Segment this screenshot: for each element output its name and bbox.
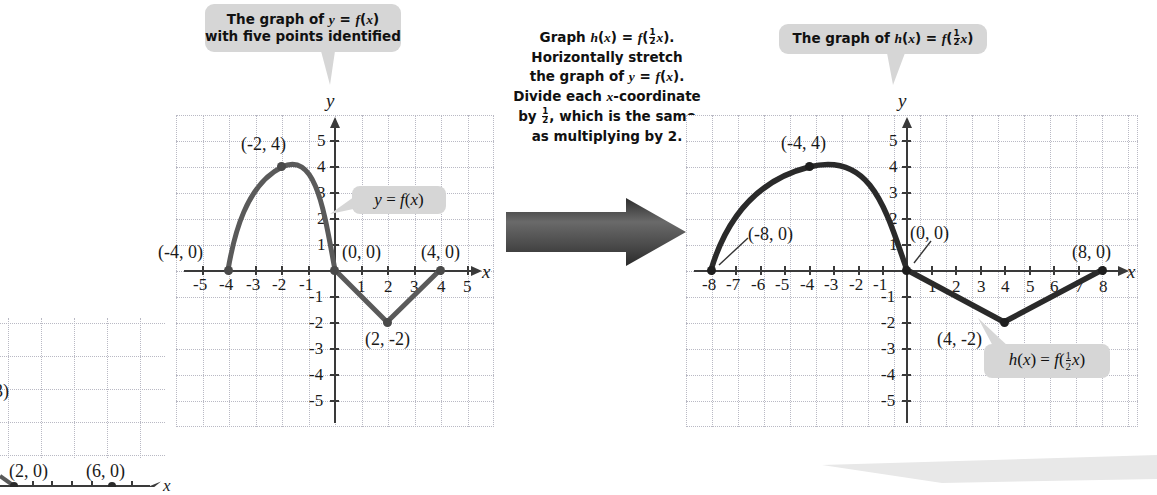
right-point-label--8-0: (-8, 0) [748, 224, 793, 245]
left-curve-label: y = f(x) [352, 186, 446, 214]
instruction-text: Graph h(x) = f(12x). Horizontally stretc… [501, 28, 713, 146]
right-point-0-0 [902, 266, 911, 275]
decorative-wedge [822, 455, 1157, 487]
right-point-8-0 [1098, 266, 1107, 275]
left-point--2-4 [277, 162, 286, 171]
left-point-label-4-0: (4, 0) [421, 242, 460, 263]
instruction-line-1: Graph h(x) = f(12x). [501, 28, 713, 48]
left-point-label-2--2: (2, -2) [365, 329, 410, 350]
callout-right-text: The graph of h(x) = f(12x) [793, 30, 974, 47]
right-point--8-0 [707, 266, 716, 275]
transformation-arrow [506, 196, 686, 268]
left-point-4-0 [436, 266, 445, 275]
left-point-0-0 [330, 266, 339, 275]
callout-left-line2: with five points identified [205, 28, 401, 44]
instruction-line-6: as multiplying by 2. [501, 127, 713, 147]
instruction-line-2: Horizontally stretch [501, 48, 713, 68]
right-point-label--4-4: (-4, 4) [781, 133, 826, 154]
instruction-line-4: Divide each x-coordinate [501, 87, 713, 107]
right-point--4-4 [805, 162, 814, 171]
left-curve-label-tail [330, 192, 360, 218]
left-point-label-0-0: (0, 0) [342, 242, 381, 263]
instruction-line-3: the graph of y = f(x). [501, 67, 713, 87]
adjacent-figure-fragment: 3) (2, 0) (6, 0) x [0, 318, 172, 487]
left-point-label--4-0: (-4, 0) [158, 242, 203, 263]
instruction-line-5: by 12, which is the same [501, 107, 713, 127]
left-y-axis-label: y [326, 90, 334, 112]
left-point--4-0 [224, 266, 233, 275]
left-graph-panel: x y -5 -4 -3 -2 -1 1 2 3 4 5 5 4 3 2 1 -… [176, 115, 494, 427]
callout-left-tail [321, 51, 335, 85]
callout-left-line1: The graph of y = f(x) [227, 11, 379, 27]
right-curve-label-tail [970, 318, 1012, 352]
left-point-2--2 [383, 318, 392, 327]
right-point-label-0-0: (0, 0) [910, 223, 949, 244]
callout-left-graph: The graph of y = f(x) with five points i… [205, 4, 401, 52]
right-curve-label-text: h(x) = f(12x) [1009, 350, 1086, 372]
left-curve-label-text: y = f(x) [374, 190, 423, 210]
right-point-label-8-0: (8, 0) [1072, 242, 1111, 263]
callout-right-graph: The graph of h(x) = f(12x) [779, 24, 987, 54]
callout-right-tail [887, 53, 905, 85]
left-point-label--2-4: (-2, 4) [241, 134, 286, 155]
fragment-curve [0, 318, 172, 487]
right-graph-panel: x y -8 -7 -6 -5 -4 -3 -2 -1 1 2 3 4 5 6 … [686, 115, 1138, 427]
right-y-axis-label: y [898, 90, 906, 112]
fragment-x-axis-label: x [163, 476, 171, 495]
right-graph-curve [686, 115, 1138, 427]
